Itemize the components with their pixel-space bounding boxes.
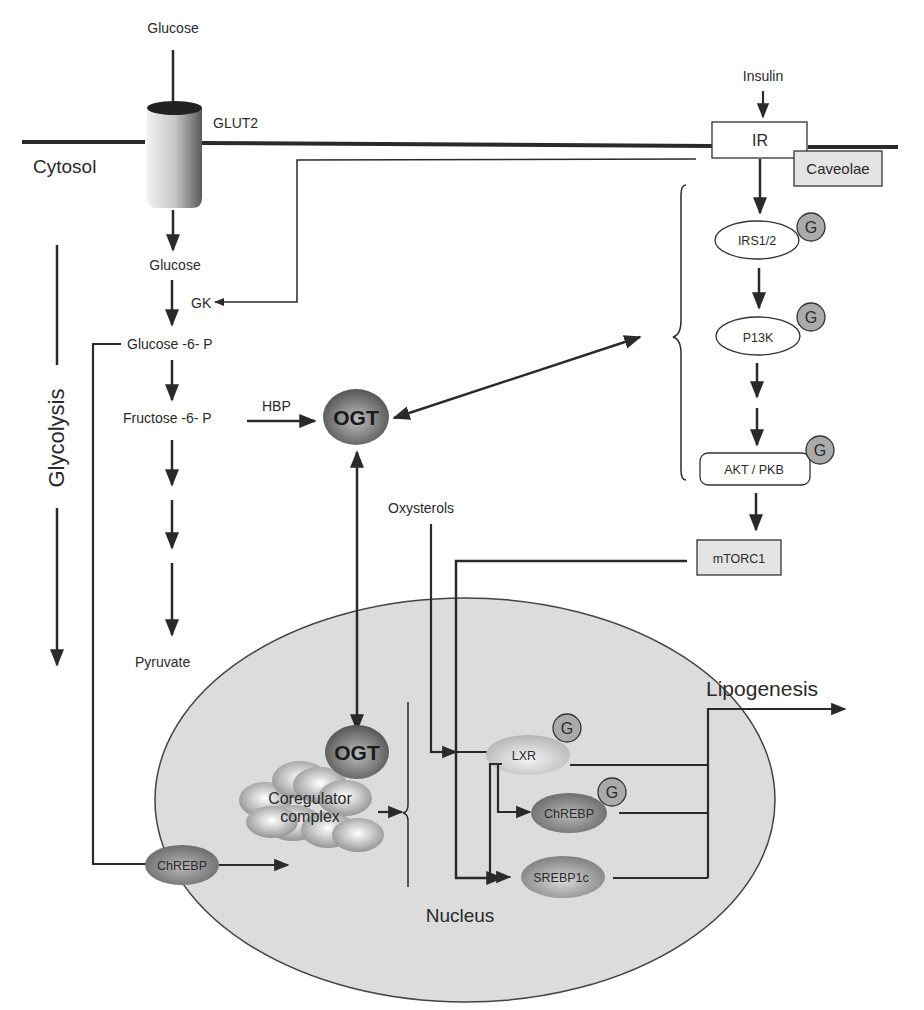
ogt-lipogenesis-pathway-diagram: Nucleus Cytosol GLUT2 Glucose Glucose GK… bbox=[0, 0, 924, 1010]
akt-pkb-node: AKT / PKB bbox=[700, 453, 810, 485]
chrebp-cytosolic-label: ChREBP bbox=[157, 859, 207, 873]
irs1-2-node: IRS1/2 bbox=[715, 221, 799, 259]
hbp-label: HBP bbox=[262, 398, 291, 414]
ogt-nuclear: OGT bbox=[325, 725, 389, 779]
glcnac-label: G bbox=[606, 784, 618, 801]
glcnac-marker-chrebp: G bbox=[598, 778, 626, 806]
pyruvate-label: Pyruvate bbox=[135, 654, 190, 670]
glucose-intracellular-label: Glucose bbox=[149, 257, 201, 273]
akt-pkb-label: AKT / PKB bbox=[724, 463, 784, 477]
coregulator-label-line2: complex bbox=[280, 808, 340, 825]
glcnac-marker-lxr: G bbox=[553, 714, 581, 742]
ogt-cytosolic: OGT bbox=[323, 389, 389, 445]
insulin-label: Insulin bbox=[743, 68, 783, 84]
srebp1c-node: SREBP1c bbox=[521, 856, 605, 898]
ogt-insulin-signaling-arrow bbox=[394, 337, 640, 418]
glut2-label: GLUT2 bbox=[213, 115, 258, 131]
glut2-transporter bbox=[147, 101, 202, 208]
mtorc1-node: mTORC1 bbox=[697, 540, 781, 575]
ir-label: IR bbox=[752, 132, 768, 149]
chrebp-nuclear-node: ChREBP bbox=[531, 793, 607, 833]
nucleus-label: Nucleus bbox=[426, 905, 495, 926]
ogt-cytosolic-label: OGT bbox=[333, 406, 379, 429]
gk-label: GK bbox=[191, 295, 212, 311]
srebp1c-label: SREBP1c bbox=[533, 871, 589, 885]
chrebp-nuclear-label: ChREBP bbox=[544, 807, 594, 821]
pi3k-label: P13K bbox=[743, 331, 774, 345]
insulin-to-gk-arrow bbox=[215, 159, 696, 302]
caveolae: Caveolae bbox=[794, 151, 882, 186]
glcnac-marker-akt: G bbox=[806, 436, 834, 464]
coregulator-label-line1: Coregulator bbox=[268, 790, 352, 807]
insulin-receptor: IR bbox=[712, 122, 807, 158]
pi3k-node: P13K bbox=[716, 317, 800, 355]
glcnac-marker-irs: G bbox=[797, 213, 825, 241]
glcnac-label: G bbox=[814, 442, 826, 459]
fructose-6p-label: Fructose -6- P bbox=[123, 410, 212, 426]
lxr-label: LXR bbox=[512, 749, 536, 763]
glcnac-label: G bbox=[561, 720, 573, 737]
glcnac-label: G bbox=[805, 219, 817, 236]
irs1-2-label: IRS1/2 bbox=[738, 234, 776, 248]
glcnac-label: G bbox=[805, 309, 817, 326]
oxysterols-label: Oxysterols bbox=[388, 500, 454, 516]
lipogenesis-label: Lipogenesis bbox=[706, 677, 818, 700]
cytosol-label: Cytosol bbox=[33, 156, 96, 177]
glcnac-marker-pi3k: G bbox=[797, 303, 825, 331]
glucose-6p-label: Glucose -6- P bbox=[127, 336, 213, 352]
chrebp-cytosolic-node: ChREBP bbox=[145, 845, 219, 885]
ogt-nuclear-label: OGT bbox=[334, 741, 380, 764]
insulin-pathway-brace bbox=[673, 185, 686, 480]
glucose-extracellular-label: Glucose bbox=[147, 20, 199, 36]
caveolae-label: Caveolae bbox=[806, 160, 869, 177]
glycolysis-label: Glycolysis bbox=[44, 388, 69, 487]
mtorc1-label: mTORC1 bbox=[713, 552, 766, 566]
